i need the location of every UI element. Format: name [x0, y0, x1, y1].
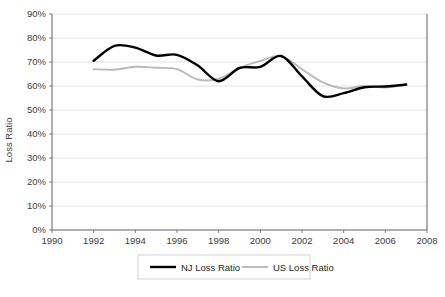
chart-container: 0%10%20%30%40%50%60%70%80%90% 1990199219… [0, 0, 445, 297]
series-line-nj-loss-ratio [94, 45, 407, 97]
y-axis-title: Loss Ratio [3, 118, 14, 163]
x-tick-label: 2004 [333, 235, 354, 246]
x-tick-label: 1998 [208, 235, 229, 246]
x-axis-tick-labels: 1990199219941996199820002002200420062008 [41, 230, 437, 246]
x-tick-label: 1992 [83, 235, 104, 246]
legend-label-us: US Loss Ratio [273, 262, 334, 273]
y-tick-label: 60% [27, 80, 47, 91]
y-tick-label: 10% [27, 200, 47, 211]
y-tick-label: 90% [27, 8, 47, 19]
x-tick-label: 1994 [125, 235, 146, 246]
x-tick-label: 1990 [41, 235, 62, 246]
y-tick-label: 70% [27, 56, 47, 67]
y-tick-label: 50% [27, 104, 47, 115]
y-tick-label: 30% [27, 152, 47, 163]
gridlines [49, 14, 427, 230]
y-tick-label: 80% [27, 32, 47, 43]
legend: NJ Loss Ratio US Loss Ratio [138, 255, 334, 279]
x-tick-label: 2008 [416, 235, 437, 246]
series-line-us-loss-ratio [94, 56, 407, 89]
y-tick-label: 0% [32, 224, 46, 235]
y-tick-label: 40% [27, 128, 47, 139]
x-tick-label: 1996 [166, 235, 187, 246]
x-tick-label: 2006 [375, 235, 396, 246]
legend-label-nj: NJ Loss Ratio [181, 262, 240, 273]
x-tick-label: 2002 [291, 235, 312, 246]
cut-off-caption [0, 289, 445, 297]
y-axis-tick-labels: 0%10%20%30%40%50%60%70%80%90% [27, 8, 47, 235]
loss-ratio-line-chart: 0%10%20%30%40%50%60%70%80%90% 1990199219… [0, 0, 445, 297]
y-tick-label: 20% [27, 176, 47, 187]
x-tick-label: 2000 [250, 235, 271, 246]
